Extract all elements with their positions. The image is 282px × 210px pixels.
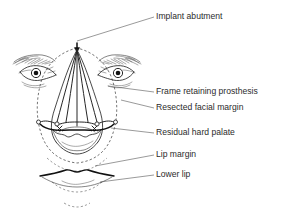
label-resected-facial-margin: Resected facial margin <box>156 102 244 112</box>
illustration-canvas: Implant abutment Frame retaining prosthe… <box>0 0 282 210</box>
frame-retaining-prosthesis <box>37 43 118 131</box>
residual-hard-palate <box>53 130 101 151</box>
leader-lower-lip <box>100 175 154 182</box>
frame-node-right <box>95 122 99 126</box>
leader-resected-facial-margin <box>121 100 154 108</box>
leader-implant-abutment <box>77 17 154 41</box>
anatomical-illustration: Implant abutment Frame retaining prosthe… <box>0 0 282 210</box>
lower-lip <box>40 170 114 187</box>
frame-terminal-left <box>37 120 41 124</box>
label-residual-hard-palate: Residual hard palate <box>156 127 235 137</box>
leader-lines <box>77 17 154 182</box>
label-implant-abutment: Implant abutment <box>156 11 223 21</box>
left-eyebrow <box>13 55 55 65</box>
label-lip-margin: Lip margin <box>156 149 196 159</box>
leader-residual-hard-palate <box>111 128 154 133</box>
left-eye <box>19 66 56 88</box>
label-lower-lip: Lower lip <box>156 169 191 179</box>
right-eye <box>98 66 135 88</box>
frame-node-left <box>55 122 59 126</box>
frame-terminal-right <box>114 120 118 124</box>
right-eyebrow <box>99 55 141 65</box>
label-frame-retaining-prosthesis: Frame retaining prosthesis <box>156 86 258 96</box>
label-group: Implant abutment Frame retaining prosthe… <box>156 11 258 179</box>
